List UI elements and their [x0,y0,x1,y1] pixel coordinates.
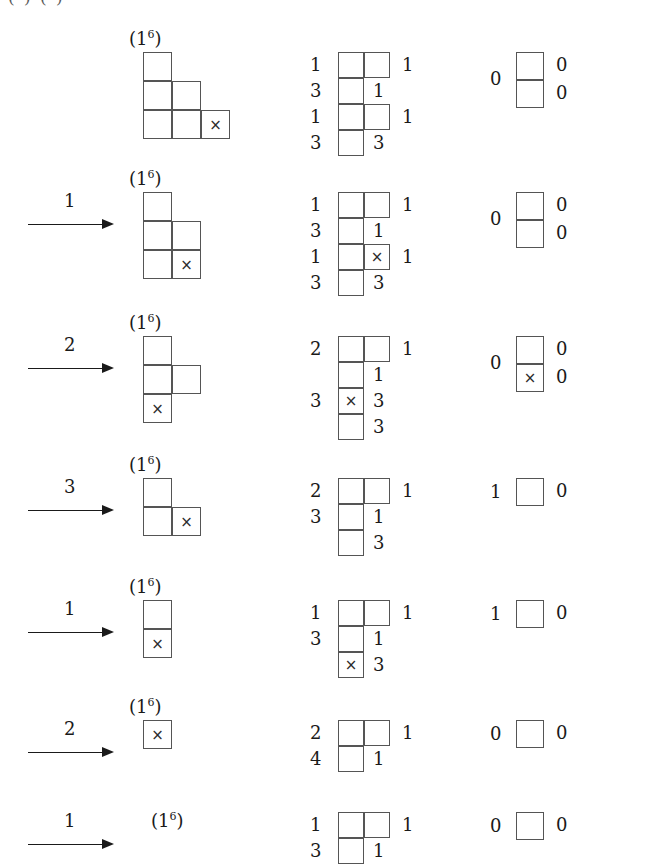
x-mark-icon: × [144,721,171,748]
right-cell [516,192,544,220]
young-cell [143,600,172,629]
middle-left-label: 3 [310,392,321,410]
young-cell [143,365,172,394]
arrow-head-icon [102,627,114,637]
middle-cell [338,414,364,440]
middle-inner-label: 1 [373,222,384,240]
right-cell [516,600,544,628]
right-cell [516,812,544,840]
transition-arrow: 1 [12,602,132,648]
middle-cell [338,746,364,772]
middle-left-label: 2 [310,340,321,358]
middle-left-label: 1 [310,196,321,214]
middle-left-label: 3 [310,82,321,100]
arrow-label: 1 [64,812,75,830]
sequence-row: 3(16)×2311310 [0,452,660,592]
x-mark-icon: × [339,389,363,413]
partition-exponent: 6 [147,168,154,181]
transition-arrow: 3 [12,480,132,526]
arrow-shaft [28,844,104,845]
young-cell [143,81,172,110]
partition-label: (16) [129,452,162,474]
young-cell-marked: × [172,507,201,536]
middle-inner-label: 1 [373,630,384,648]
middle-cell [338,838,364,864]
young-cell [143,221,172,250]
middle-left-label: 1 [310,248,321,266]
middle-inner-label: 1 [373,750,384,768]
middle-left-label: 2 [310,482,321,500]
middle-cell [338,504,364,530]
middle-inner-label: 3 [373,392,384,410]
young-cell-marked: × [143,394,172,423]
right-left-label: 0 [490,354,501,372]
middle-right-label: 1 [402,340,413,358]
right-right-label: 0 [556,224,567,242]
middle-left-label: 1 [310,816,321,834]
middle-left-label: 3 [310,842,321,860]
arrow-shaft [28,368,104,369]
middle-inner-label: 3 [373,274,384,292]
middle-right-label: 1 [402,108,413,126]
arrow-head-icon [102,219,114,229]
arrow-head-icon [102,363,114,373]
middle-cell [338,192,364,218]
young-cell-marked: × [201,110,230,139]
middle-cell [338,530,364,556]
right-right-label: 0 [556,368,567,386]
partition-label: (16) [129,310,162,332]
x-mark-icon: × [339,653,363,677]
arrow-label: 3 [64,478,75,496]
middle-cell [364,336,390,362]
right-right-label: 0 [556,340,567,358]
middle-cell [338,270,364,296]
middle-inner-label: 3 [373,418,384,436]
middle-inner-label: 1 [373,508,384,526]
arrow-label: 1 [64,600,75,618]
sequence-row: 1(16)××1311310 [0,574,660,714]
right-right-label: 0 [556,724,567,742]
young-cell [172,81,201,110]
middle-left-label: 1 [310,108,321,126]
middle-cell [338,600,364,626]
arrow-shaft [28,752,104,753]
middle-cell-marked: × [338,652,364,678]
partition-exponent: 6 [147,576,154,589]
partition-exponent: 6 [147,454,154,467]
middle-left-label: 3 [310,134,321,152]
middle-cell [364,812,390,838]
young-cell-marked: × [172,250,201,279]
middle-cell [364,720,390,746]
x-mark-icon: × [144,630,171,657]
right-left-label: 0 [490,817,501,835]
sequence-row: 1(16)131100 [0,786,660,868]
middle-cell-marked: × [364,244,390,270]
young-cell [172,110,201,139]
x-mark-icon: × [144,395,171,422]
young-cell [143,507,172,536]
right-right-label: 0 [556,482,567,500]
young-cell [143,250,172,279]
middle-cell [364,52,390,78]
right-right-label: 0 [556,816,567,834]
x-mark-icon: × [173,251,200,278]
middle-inner-label: 3 [373,656,384,674]
young-cell [143,336,172,365]
right-left-label: 1 [490,605,501,623]
arrow-label: 2 [64,336,75,354]
middle-cell [364,600,390,626]
arrow-head-icon [102,505,114,515]
young-cell-marked: × [143,629,172,658]
arrow-label: 1 [64,192,75,210]
right-left-label: 1 [490,483,501,501]
middle-left-label: 3 [310,508,321,526]
right-right-label: 0 [556,84,567,102]
figure-canvas: ( ) ( ) (16)×131311130001(16)××131311130… [0,0,660,868]
partition-exponent: 6 [169,810,176,823]
partition-label: (16) [129,166,162,188]
right-cell [516,336,544,364]
partition-label: (16) [129,574,162,596]
x-mark-icon: × [365,245,389,269]
young-cell [172,221,201,250]
middle-right-label: 1 [402,604,413,622]
